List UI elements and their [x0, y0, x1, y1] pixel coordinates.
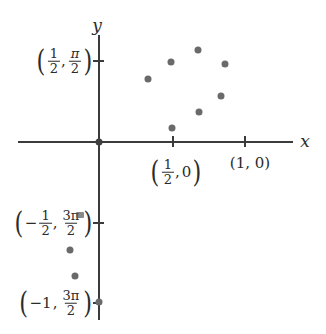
- label-half-zero: ( 1 2 , 0 ): [149, 158, 203, 187]
- x-tick-one: [244, 136, 246, 147]
- origin-dot: [96, 139, 103, 146]
- open-paren: (: [150, 160, 159, 184]
- open-paren: (: [36, 49, 45, 73]
- data-point: [196, 109, 203, 116]
- zero-value: 0: [182, 165, 192, 180]
- data-point: [222, 61, 229, 68]
- comma: ,: [53, 296, 58, 311]
- x-axis-label: x: [300, 131, 310, 151]
- y-axis: [98, 35, 100, 320]
- data-point: [96, 299, 103, 306]
- negative-one: −1: [30, 296, 52, 311]
- x-tick-half: [172, 136, 174, 147]
- data-point: [145, 76, 152, 83]
- data-point: [218, 93, 225, 100]
- close-paren: ): [193, 160, 202, 184]
- y-tick-neg-half: [93, 222, 104, 224]
- data-point: [168, 59, 175, 66]
- comma: ,: [61, 54, 66, 69]
- comma: ,: [175, 165, 180, 180]
- fraction-one-half: 1 2: [162, 158, 174, 187]
- close-paren: ): [84, 211, 93, 235]
- fraction-pi-over-2: π 2: [69, 47, 82, 76]
- fraction-one-half: 1 2: [39, 209, 51, 238]
- minus-sign: −: [25, 216, 38, 231]
- open-paren: (: [15, 211, 24, 235]
- label-neg-one-3pi-over-2: ( −1 , 3π 2 ): [18, 289, 94, 318]
- data-point: [169, 125, 176, 132]
- y-axis-label: y: [92, 15, 102, 35]
- print-smudge: [76, 212, 84, 218]
- comma: ,: [53, 216, 58, 231]
- data-point: [72, 273, 79, 280]
- label-half-pi-over-2: ( 1 2 , π 2 ): [35, 47, 94, 76]
- data-point: [195, 47, 202, 54]
- close-paren: ): [84, 291, 93, 315]
- fraction-three-pi-over-2: 3π 2: [60, 289, 81, 318]
- x-axis: [18, 141, 293, 143]
- data-point: [67, 247, 74, 254]
- open-paren: (: [19, 291, 28, 315]
- fraction-one-half: 1 2: [48, 47, 60, 76]
- y-tick-pi-over-2: [93, 60, 104, 62]
- label-one-zero: (1, 0): [230, 156, 270, 171]
- scatter-plot-figure: y x ( 1 2 , π 2 ): [0, 0, 326, 334]
- close-paren: ): [84, 49, 93, 73]
